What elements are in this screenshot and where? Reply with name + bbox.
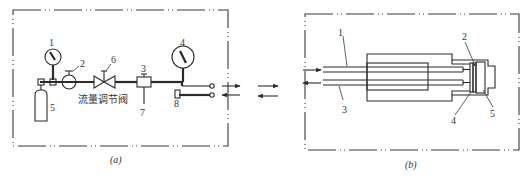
gauge-4-needle [180,51,186,63]
gas-cylinder-5 [35,85,47,121]
filter-body-icon [137,77,151,87]
label-fiber-1: 1 [338,27,343,38]
valve-right-triangle-icon [104,76,115,88]
pressure-gauge-1 [45,49,61,80]
label-fiber-3: 3 [342,104,347,115]
outlet-port-upper [210,84,214,88]
leader-6 [106,64,111,71]
label-gauge-1: 1 [49,37,54,48]
label-part-8: 8 [174,98,179,109]
leader-b3 [339,86,343,100]
panel-a-caption: (a) [110,154,122,166]
label-cylinder-5: 5 [50,102,55,113]
pressure-gauge-4 [172,46,194,82]
leader-2 [73,66,79,71]
label-gauge-4: 4 [180,37,185,48]
cylinder-body-icon [35,90,47,121]
leader-b1 [343,36,347,66]
filter-3 [137,74,151,104]
panel-a-frame [13,10,228,146]
outlet-port-lower [210,93,214,97]
panel-a: 1 5 2 6 流量调节阀 [13,10,228,166]
label-part-5: 5 [490,108,495,119]
housing-step [452,60,470,95]
label-part-2: 2 [462,31,467,42]
valve-left-triangle-icon [94,76,104,88]
panel-b: 1 3 2 4 5 (b) [303,14,519,171]
label-valve-6: 6 [111,54,116,65]
label-filter-3: 3 [141,63,146,74]
panel-b-caption: (b) [405,159,417,171]
label-reducer-2: 2 [80,58,85,69]
pressure-reducer-2 [62,66,79,89]
flow-control-valve-6 [94,64,115,88]
label-part-4: 4 [451,115,456,126]
label-drain-7: 7 [140,107,145,118]
diagram-canvas: 1 5 2 6 流量调节阀 [0,0,531,182]
fiber-bundle [323,67,470,85]
chamber-5 [476,62,485,93]
valve-caption: 流量调节阀 [78,93,128,105]
gauge-1-needle [50,52,55,60]
flow-arrows [222,86,278,96]
reflector-point [474,64,476,66]
